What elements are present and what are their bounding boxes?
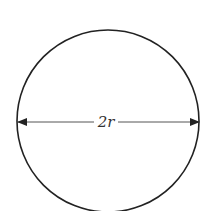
circle-diameter-diagram: 2r [0, 0, 216, 211]
diameter-label: 2r [97, 113, 116, 131]
